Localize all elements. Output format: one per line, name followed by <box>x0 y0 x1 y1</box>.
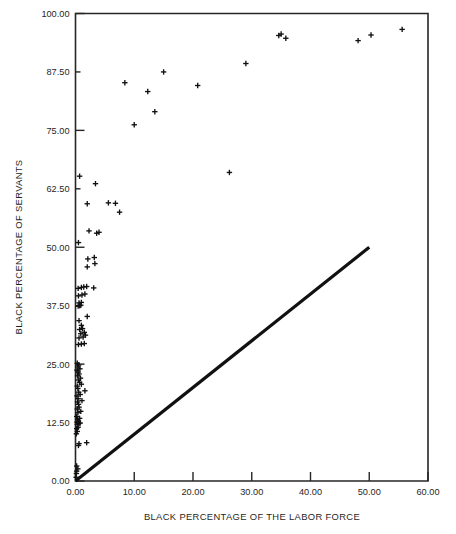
reference-line-group <box>76 247 370 481</box>
data-point <box>283 36 288 41</box>
data-point <box>195 83 200 88</box>
data-point <box>79 292 84 297</box>
data-point <box>243 61 248 66</box>
plot-canvas: 0.0012.5025.0037.5050.0062.5075.0087.501… <box>0 0 456 534</box>
data-points-group <box>73 27 404 480</box>
data-point <box>85 256 90 261</box>
y-tick-label-87.50: 87.50 <box>47 67 70 77</box>
x-tick-label-60.00: 60.00 <box>417 487 440 497</box>
y-tick-label-62.50: 62.50 <box>47 184 70 194</box>
data-point <box>82 341 87 346</box>
y-tick-label-100.00: 100.00 <box>41 9 69 19</box>
data-point <box>399 27 404 32</box>
y-tick-label-37.50: 37.50 <box>47 301 70 311</box>
data-point <box>76 293 81 298</box>
y-tick-label-75.00: 75.00 <box>47 126 70 136</box>
data-point <box>92 261 97 266</box>
y-tick-label-50.00: 50.00 <box>47 243 70 253</box>
data-point <box>84 284 89 289</box>
data-point <box>145 89 150 94</box>
data-point <box>84 440 89 445</box>
data-point <box>92 255 97 260</box>
x-tick-label-40.00: 40.00 <box>299 487 322 497</box>
scatter-plot-figure: 0.0012.5025.0037.5050.0062.5075.0087.501… <box>0 0 456 534</box>
data-point <box>152 109 157 114</box>
data-point <box>113 201 118 206</box>
data-point <box>76 240 81 245</box>
x-tick-label-50.00: 50.00 <box>358 487 381 497</box>
axis-frame <box>76 14 429 482</box>
x-tick-label-10.00: 10.00 <box>123 487 146 497</box>
data-point <box>106 200 111 205</box>
y-tick-label-0.00: 0.00 <box>52 476 70 486</box>
x-axis-title: BLACK PERCENTAGE OF THE LABOR FORCE <box>144 511 360 522</box>
data-point <box>91 285 96 290</box>
data-point <box>86 228 91 233</box>
axis-titles-group: BLACK PERCENTAGE OF THE LABOR FORCE BLAC… <box>13 160 360 522</box>
data-point <box>77 173 82 178</box>
data-point <box>85 201 90 206</box>
data-point <box>355 38 360 43</box>
tick-labels-group: 0.0012.5025.0037.5050.0062.5075.0087.501… <box>41 9 439 497</box>
data-point <box>368 32 373 37</box>
y-tick-label-25.00: 25.00 <box>47 360 70 370</box>
data-point <box>161 69 166 74</box>
data-point <box>82 291 87 296</box>
x-tick-label-0.00: 0.00 <box>67 487 85 497</box>
data-point <box>122 80 127 85</box>
data-point <box>132 122 137 127</box>
data-point <box>76 318 81 323</box>
tick-marks-group <box>76 14 429 482</box>
y-axis-title: BLACK PERCENTAGE OF SERVANTS <box>13 160 24 335</box>
x-tick-label-30.00: 30.00 <box>240 487 263 497</box>
y-tick-label-12.50: 12.50 <box>47 418 70 428</box>
data-point <box>93 181 98 186</box>
data-point <box>227 170 232 175</box>
parity-reference-line <box>76 247 370 481</box>
data-point <box>85 264 90 269</box>
data-point <box>117 209 122 214</box>
x-tick-label-20.00: 20.00 <box>182 487 205 497</box>
axis-frame-group <box>76 14 429 482</box>
data-point <box>85 314 90 319</box>
data-point <box>82 388 87 393</box>
